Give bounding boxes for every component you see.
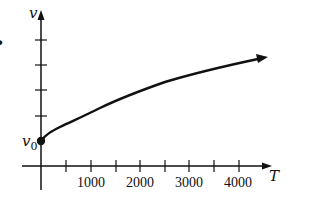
v0-point <box>37 137 45 145</box>
y-axis-arrow-icon <box>38 10 45 20</box>
x-axis-label: T <box>269 167 279 185</box>
v0-label-subscript: 0 <box>30 140 37 153</box>
x-tick-label-3000: 3000 <box>175 175 203 191</box>
x-tick-label-4000: 4000 <box>224 175 252 191</box>
y-axis-label: v <box>29 4 37 22</box>
data-curve <box>41 59 258 141</box>
x-tick-label-1000: 1000 <box>77 175 105 191</box>
x-tick-label-2000: 2000 <box>126 175 154 191</box>
v0-label: v0 <box>22 132 37 153</box>
curve-arrow-icon <box>256 54 268 63</box>
